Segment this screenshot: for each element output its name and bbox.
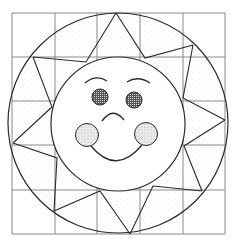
left-cheek xyxy=(76,124,99,147)
left-eye xyxy=(92,89,108,105)
inner-circle xyxy=(51,57,185,191)
right-eye xyxy=(126,92,142,108)
sun-svg xyxy=(0,0,233,246)
sun-drawing xyxy=(0,0,233,246)
right-cheek xyxy=(135,123,158,146)
